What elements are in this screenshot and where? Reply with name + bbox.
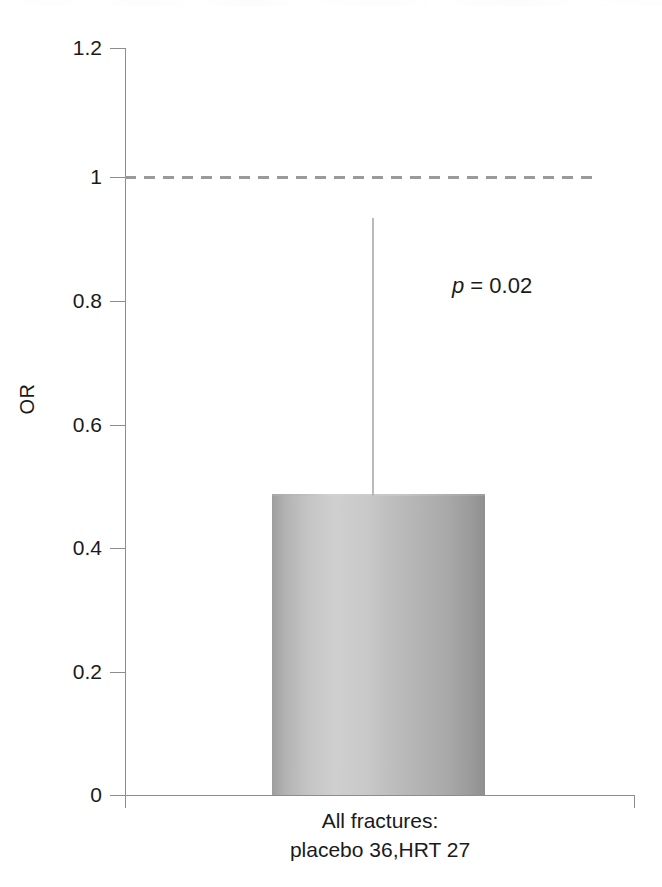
y-tick-mark-0-8: [110, 301, 125, 302]
x-category-line-2: placebo 36,HRT 27: [180, 835, 580, 864]
y-tick-label-0-8: 0.8: [0, 289, 102, 313]
x-axis-start-tick: [125, 795, 126, 808]
reference-line-or-1: [125, 176, 598, 179]
x-axis-end-tick: [634, 795, 635, 808]
p-value-text: = 0.02: [464, 273, 532, 298]
odds-ratio-bar-chart: 1.2 1 0.8 0.6 0.4 0.2 0 OR p = 0.02 All …: [0, 0, 662, 887]
x-category-line-1: All fractures:: [180, 806, 580, 835]
y-tick-label-0-4: 0.4: [0, 536, 102, 560]
y-axis-title: OR: [16, 384, 39, 415]
bar-all-fractures: [272, 494, 485, 795]
y-tick-label-0: 0: [0, 783, 102, 807]
y-tick-mark-1: [110, 177, 125, 178]
y-tick-label-1: 1: [0, 165, 102, 189]
y-tick-mark-0-6: [110, 425, 125, 426]
y-axis-line: [125, 48, 126, 796]
x-axis-line: [125, 795, 635, 796]
p-value-annotation: p = 0.02: [452, 273, 532, 299]
y-tick-label-1-2: 1.2: [0, 36, 102, 60]
y-tick-label-0-2: 0.2: [0, 660, 102, 684]
y-tick-mark-0-2: [110, 672, 125, 673]
bar-top-edge: [272, 494, 485, 496]
y-tick-label-0-6: 0.6: [0, 413, 102, 437]
p-symbol: p: [452, 273, 464, 298]
x-axis-category-label: All fractures: placebo 36,HRT 27: [180, 806, 580, 864]
error-bar-upper: [372, 218, 374, 496]
y-tick-mark-0: [110, 795, 125, 796]
y-tick-mark-0-4: [110, 548, 125, 549]
y-tick-mark-1-2: [110, 48, 125, 49]
